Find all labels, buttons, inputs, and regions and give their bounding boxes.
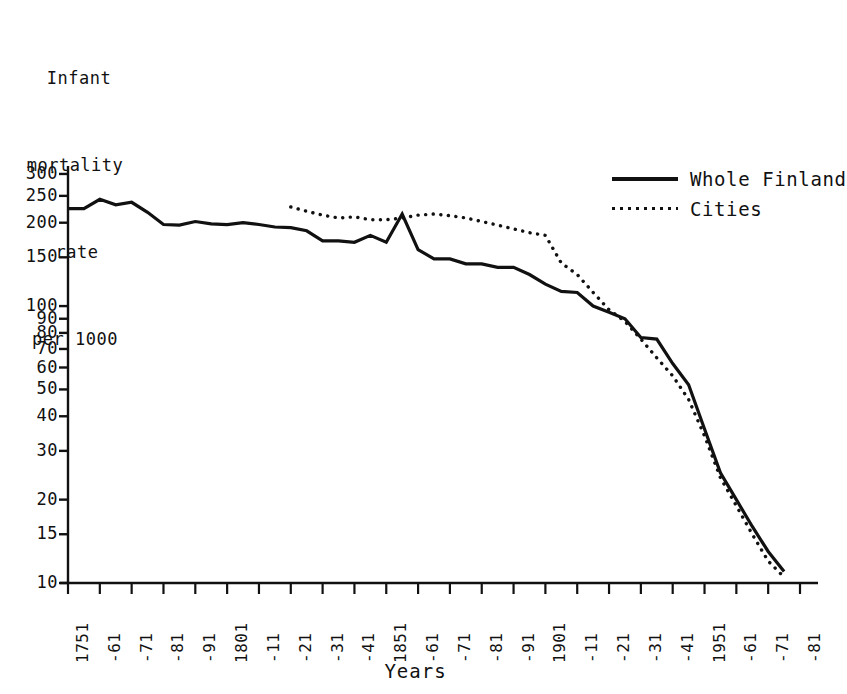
x-axis-tick-label-text: -81	[807, 633, 823, 663]
x-axis-tick-label-text: -11	[584, 633, 600, 663]
x-axis-tick-label-text: -21	[616, 633, 632, 663]
x-axis-tick-label-text: 1901	[552, 622, 568, 663]
y-axis-tick-label-text: 200	[8, 214, 58, 231]
x-axis-tick-label-text: -81	[170, 633, 186, 663]
x-axis-tick-label-text: -11	[266, 633, 282, 663]
x-axis-tick-label-text: -41	[361, 633, 377, 663]
y-axis-tick-label-text: 20	[8, 491, 58, 508]
x-axis-tick-label-text: -91	[202, 633, 218, 663]
x-axis-tick-label-text: -21	[298, 633, 314, 663]
y-axis-tick-label-text: 150	[8, 248, 58, 265]
legend-entry-cities: Cities	[612, 194, 847, 224]
x-axis-tick-label-text: 1951	[712, 622, 728, 663]
x-axis-tick-label-text: 1851	[393, 622, 409, 663]
y-axis-tick-label-text: 30	[8, 442, 58, 459]
y-axis-tick-label-text: 70	[8, 340, 58, 357]
legend-label-cities: Cities	[690, 194, 762, 224]
chart-series	[68, 199, 784, 577]
legend-label-whole-finland: Whole Finland	[690, 164, 847, 194]
x-axis-tick-label-text: 1751	[75, 622, 91, 663]
series-line-cities	[291, 207, 784, 577]
y-axis-tick-label-text: 10	[8, 574, 58, 591]
x-axis-tick-label-text: -61	[425, 633, 441, 663]
x-axis-tick-label-text: -61	[743, 633, 759, 663]
x-axis-title: Years	[0, 660, 831, 682]
chart-legend: Whole Finland Cities	[612, 164, 847, 224]
y-axis-tick-label-text: 15	[8, 525, 58, 542]
legend-entry-whole-finland: Whole Finland	[612, 164, 847, 194]
y-axis-tick-label-text: 40	[8, 407, 58, 424]
x-axis-tick-label-text: -71	[139, 633, 155, 663]
y-axis-tick-label-text: 50	[8, 380, 58, 397]
series-line-whole-finland	[68, 199, 784, 571]
y-axis-tick-label-text: 250	[8, 187, 58, 204]
y-axis-tick-label-text: 300	[8, 165, 58, 182]
chart-axes	[59, 166, 818, 594]
x-axis-tick-label-text: -91	[521, 633, 537, 663]
x-axis-tick-label-text: -31	[648, 633, 664, 663]
x-axis-tick-label-text: 1801	[234, 622, 250, 663]
x-axis-tick-label-text: -71	[457, 633, 473, 663]
solid-line-icon	[612, 172, 678, 186]
x-axis-tick-label-text: -61	[107, 633, 123, 663]
y-axis-tick-label-text: 60	[8, 359, 58, 376]
x-axis-tick-label-text: -81	[489, 633, 505, 663]
x-axis-tick-label-text: -71	[775, 633, 791, 663]
dotted-line-icon	[612, 202, 678, 216]
x-axis-tick-label-text: -31	[330, 633, 346, 663]
x-axis-tick-label-text: -41	[680, 633, 696, 663]
